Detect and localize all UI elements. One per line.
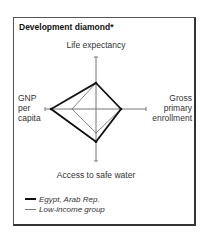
legend-label: Low-income group bbox=[39, 205, 105, 214]
axes bbox=[45, 57, 146, 161]
legend-swatch-low-income bbox=[25, 209, 36, 210]
data-point-low-income-group-gnp-per-capita bbox=[71, 108, 72, 109]
data-point-egypt-arab-rep-primary-enrollment bbox=[120, 108, 123, 111]
legend: Egypt, Arab Rep. Low-income group bbox=[25, 194, 105, 214]
data-point-low-income-group-safe-water bbox=[95, 132, 96, 133]
legend-swatch-egypt bbox=[25, 198, 36, 200]
series-polygon-egypt-arab-rep bbox=[51, 83, 121, 142]
series-polygon-low-income-group bbox=[72, 83, 121, 133]
data-point-egypt-arab-rep-safe-water bbox=[95, 140, 98, 143]
legend-item-low-income: Low-income group bbox=[25, 204, 105, 214]
legend-item-egypt: Egypt, Arab Rep. bbox=[25, 194, 105, 204]
legend-label: Egypt, Arab Rep. bbox=[39, 195, 100, 204]
data-point-egypt-arab-rep-gnp-per-capita bbox=[50, 108, 53, 111]
series bbox=[50, 82, 122, 143]
data-point-egypt-arab-rep-life-expectancy bbox=[95, 82, 98, 85]
